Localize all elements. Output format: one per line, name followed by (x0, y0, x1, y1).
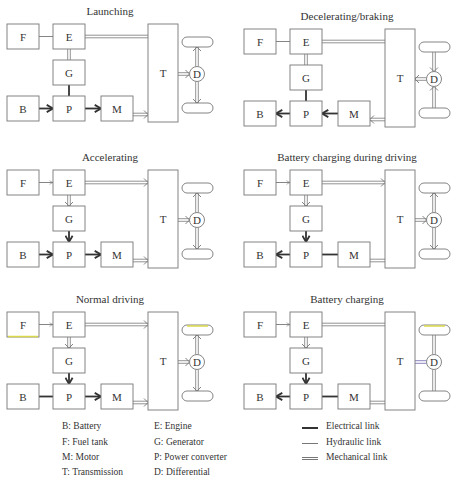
svg-text:B: B (256, 249, 263, 261)
motor-box: M (101, 242, 133, 267)
svg-text:T: T (397, 213, 404, 225)
power-converter-box: P (290, 101, 322, 126)
fuel-tank-box: F (7, 170, 39, 195)
panel-title: Launching (86, 5, 134, 17)
svg-text:P: P (303, 391, 309, 403)
panel-title: Decelerating/braking (301, 10, 394, 22)
panel-battery-charging-during-driving: Battery charging during drivingFEGBPMTD (244, 151, 450, 268)
power-converter-box: P (53, 384, 85, 409)
bottom-wheel-icon (182, 103, 213, 113)
motor-box: M (338, 384, 370, 409)
battery-box: B (244, 384, 276, 409)
svg-text:M: M (349, 108, 359, 120)
fuel-tank-box: F (7, 312, 39, 337)
svg-text:F: F (257, 36, 263, 48)
panel-normal-driving: Normal drivingFEGBPMTD (7, 293, 213, 410)
svg-text:E: E (303, 319, 310, 331)
power-converter-box: P (53, 96, 85, 121)
generator-box: G (53, 60, 85, 85)
svg-text:G: G (302, 72, 310, 84)
svg-text:G: G (65, 213, 73, 225)
generator-box: G (290, 206, 322, 231)
panel-title: Accelerating (82, 151, 139, 163)
transmission-box: T (385, 312, 415, 410)
top-wheel-icon (182, 37, 213, 47)
fuel-tank-box: F (7, 24, 39, 49)
svg-text:G: G (302, 355, 310, 367)
panel-launching: LaunchingFEGBPMTD (7, 5, 213, 122)
svg-text:B: B (19, 391, 26, 403)
top-wheel-icon (419, 325, 450, 335)
svg-text:P: P (66, 391, 72, 403)
bottom-wheel-icon (419, 391, 450, 401)
motor-box: M (101, 384, 133, 409)
panel-accelerating: AcceleratingFEGBPMTD (7, 151, 213, 268)
motor-box: M (338, 101, 370, 126)
svg-text:T: T (160, 213, 167, 225)
svg-text:D: D (430, 214, 438, 226)
svg-text:G: G (65, 67, 73, 79)
battery-box: B (244, 242, 276, 267)
svg-text:M: M (112, 391, 122, 403)
engine-box: E (53, 170, 85, 195)
engine-box: E (290, 29, 322, 54)
bottom-wheel-icon (182, 391, 213, 401)
svg-text:B: B (256, 391, 263, 403)
power-converter-box: P (290, 384, 322, 409)
svg-text:P: P (66, 103, 72, 115)
svg-text:E: E (303, 177, 310, 189)
hybrid-powertrain-diagram: LaunchingFEGBPMTDDecelerating/brakingFEG… (0, 0, 459, 489)
generator-box: G (53, 206, 85, 231)
svg-text:B: B (19, 103, 26, 115)
differential-circle: D (427, 355, 442, 370)
svg-text:T: T (160, 67, 167, 79)
svg-text:D: D (193, 68, 201, 80)
power-converter-box: P (53, 242, 85, 267)
svg-text:T: T (397, 72, 404, 84)
generator-box: G (290, 65, 322, 90)
differential-circle: D (190, 67, 205, 82)
svg-text:D: D (193, 356, 201, 368)
transmission-box: T (148, 170, 178, 268)
svg-text:B: B (19, 249, 26, 261)
svg-text:M: M (349, 391, 359, 403)
svg-text:E: E (66, 31, 73, 43)
svg-text:D: D (430, 356, 438, 368)
fuel-tank-box: F (244, 170, 276, 195)
svg-text:D: D (193, 214, 201, 226)
engine-box: E (290, 312, 322, 337)
top-wheel-icon (182, 325, 213, 335)
panels-layer: LaunchingFEGBPMTDDecelerating/brakingFEG… (7, 5, 450, 410)
battery-box: B (244, 101, 276, 126)
svg-text:E: E (66, 319, 73, 331)
transmission-box: T (148, 24, 178, 122)
engine-box: E (53, 312, 85, 337)
panel-battery-charging: Battery chargingFEGBPMTD (244, 293, 450, 410)
svg-text:M: M (112, 249, 122, 261)
engine-box: E (53, 24, 85, 49)
svg-text:B: B (256, 108, 263, 120)
battery-box: B (7, 96, 39, 121)
panel-decelerating-braking: Decelerating/brakingFEGBPMTD (244, 10, 450, 127)
motor-box: M (338, 242, 370, 267)
svg-text:F: F (257, 177, 263, 189)
svg-text:E: E (303, 36, 310, 48)
differential-circle: D (190, 355, 205, 370)
svg-text:E: E (66, 177, 73, 189)
engine-box: E (290, 170, 322, 195)
transmission-box: T (385, 29, 415, 127)
svg-text:T: T (397, 355, 404, 367)
transmission-box: T (148, 312, 178, 410)
panel-title: Battery charging during driving (277, 151, 417, 163)
battery-box: B (7, 384, 39, 409)
top-wheel-icon (419, 183, 450, 193)
differential-circle: D (427, 72, 442, 87)
panel-title: Normal driving (76, 293, 145, 305)
panel-title: Battery charging (310, 293, 384, 305)
fuel-tank-box: F (244, 29, 276, 54)
svg-text:M: M (112, 103, 122, 115)
motor-box: M (101, 96, 133, 121)
svg-text:G: G (65, 355, 73, 367)
svg-text:F: F (20, 319, 26, 331)
transmission-box: T (385, 170, 415, 268)
